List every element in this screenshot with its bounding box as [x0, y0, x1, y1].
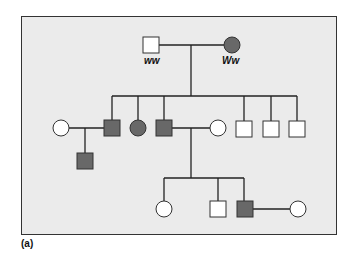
male-affected-gen2-1 [104, 120, 120, 136]
pedigree-chart [0, 0, 360, 254]
female-affected-gen2-2 [130, 120, 146, 136]
genotype-label-father: ww [144, 55, 160, 66]
male-affected-gen3-3 [237, 201, 253, 217]
female-unaffected-spouse-left [53, 120, 69, 136]
female-unaffected-gen3-1 [156, 201, 172, 217]
male-affected-gen3-left [77, 153, 93, 169]
male-unaffected-gen1-father [143, 37, 159, 53]
panel-label: (a) [21, 238, 33, 249]
male-unaffected-gen3-2 [210, 201, 226, 217]
male-unaffected-gen2-6 [289, 121, 305, 137]
female-unaffected-spouse-gen3 [290, 201, 306, 217]
female-unaffected-spouse-right [210, 120, 226, 136]
female-affected-gen1-mother [224, 37, 240, 53]
male-unaffected-gen2-5 [263, 121, 279, 137]
male-affected-gen2-3 [156, 120, 172, 136]
male-unaffected-gen2-4 [236, 121, 252, 137]
genotype-label-mother: Ww [222, 55, 239, 66]
